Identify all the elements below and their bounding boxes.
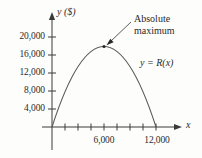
ytick-label-16000: 16,000 [0, 50, 45, 60]
ytick-label-8000: 8,000 [0, 86, 45, 96]
annotation-line-2: maximum [134, 25, 175, 37]
annotation-arrow [107, 22, 132, 45]
y-axis [49, 12, 55, 150]
curve-label: y = R(x) [140, 58, 173, 68]
x-axis [42, 124, 182, 130]
y-axis-label: y ($) [57, 7, 76, 17]
absolute-maximum-point [102, 45, 105, 48]
ytick-label-20000: 20,000 [0, 32, 45, 42]
ytick-label-4000: 4,000 [0, 104, 45, 114]
annotation-line-1: Absolute [134, 13, 175, 25]
revenue-parabola-figure: 20,000 16,000 12,000 8,000 4,000 6,000 1… [0, 0, 202, 158]
absolute-maximum-annotation: Absolute maximum [134, 13, 175, 36]
ytick-label-12000: 12,000 [0, 68, 45, 78]
x-axis-label: x [186, 120, 190, 130]
xtick-label-12000: 12,000 [131, 136, 183, 146]
xtick-label-6000: 6,000 [80, 136, 128, 146]
